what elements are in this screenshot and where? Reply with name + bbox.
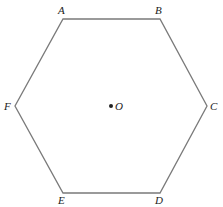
vertex-label-e: E xyxy=(57,194,65,206)
center-point xyxy=(109,104,113,108)
vertex-label-a: A xyxy=(57,4,65,16)
vertex-label-c: C xyxy=(210,100,218,112)
center-label-o: O xyxy=(115,100,123,112)
vertex-label-f: F xyxy=(3,100,11,112)
vertex-label-d: D xyxy=(154,194,163,206)
hexagon-diagram: A B C D E F O xyxy=(0,0,223,207)
vertex-label-b: B xyxy=(155,4,162,16)
